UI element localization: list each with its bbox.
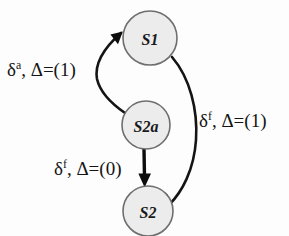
edge-s2a-to-s1-path (97, 33, 125, 113)
node-s2[interactable]: S2 (123, 186, 173, 236)
state-diagram: S1 S2a S2 δa, Δ=(1) δf, Δ=(1) δf, Δ=(0) (0, 0, 289, 236)
edge-s2a-to-s1[interactable] (97, 32, 125, 113)
edge-label-rest-f1: , Δ=(1) (212, 110, 267, 131)
node-s2-label: S2 (140, 204, 157, 221)
edge-label-s2a-to-s1: δa, Δ=(1) (7, 60, 76, 79)
node-s1-label: S1 (142, 31, 159, 48)
edge-s1-to-s2-path (169, 57, 196, 205)
node-s2a[interactable]: S2a (122, 101, 170, 149)
edge-label-s1-to-s2: δf, Δ=(1) (199, 111, 266, 130)
edge-label-rest-f0: , Δ=(0) (67, 158, 122, 179)
edge-label-s2a-to-s2: δf, Δ=(0) (54, 159, 121, 178)
edge-s2a-to-s2-path (144, 149, 145, 177)
edge-label-delta-symbol-f0: δ (54, 158, 63, 179)
node-s2a-label: S2a (134, 118, 159, 135)
edge-label-delta-symbol-a: δ (7, 59, 16, 80)
node-s1[interactable]: S1 (123, 11, 177, 65)
edge-s2a-to-s2[interactable] (138, 149, 151, 188)
edge-label-rest-a: , Δ=(1) (21, 59, 76, 80)
edge-label-delta-symbol-f1: δ (199, 110, 208, 131)
